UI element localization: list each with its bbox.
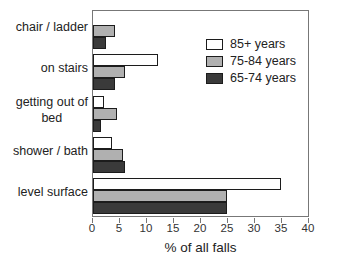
x-tick-label-0: 0 <box>80 222 104 234</box>
x-tick-label-5: 5 <box>107 222 131 234</box>
bar-65-74-years-cat2 <box>93 120 101 132</box>
x-tick-label-25: 25 <box>215 222 239 234</box>
falls-bar-chart: chair / ladderon stairsgetting out of be… <box>0 0 339 268</box>
x-tick-label-35: 35 <box>269 222 293 234</box>
legend-row-2: 65-74 years <box>206 70 296 87</box>
legend-label: 85+ years <box>230 38 285 51</box>
x-tick-label-30: 30 <box>242 222 266 234</box>
bar-85+-years-cat2 <box>93 96 104 108</box>
x-tick-label-15: 15 <box>161 222 185 234</box>
x-axis-label: % of all falls <box>92 240 309 255</box>
legend-row-1: 75-84 years <box>206 53 296 70</box>
x-tick-label-40: 40 <box>296 222 320 234</box>
bar-85+-years-cat4 <box>93 178 281 190</box>
category-label-4: level surface <box>18 184 88 200</box>
x-tick-label-20: 20 <box>188 222 212 234</box>
legend-swatch-icon <box>206 73 223 84</box>
bar-75-84-years-cat0 <box>93 25 115 37</box>
legend-swatch-icon <box>206 39 223 50</box>
bar-75-84-years-cat4 <box>93 190 227 202</box>
bar-75-84-years-cat3 <box>93 149 123 161</box>
legend-row-0: 85+ years <box>206 36 296 53</box>
legend: 85+ years75-84 years65-74 years <box>206 36 296 87</box>
legend-label: 65-74 years <box>230 72 296 85</box>
bar-75-84-years-cat1 <box>93 66 125 78</box>
legend-swatch-icon <box>206 56 223 67</box>
legend-label: 75-84 years <box>230 55 296 68</box>
category-label-1: on stairs <box>41 60 88 76</box>
category-label-2: getting out of bed <box>16 93 88 126</box>
category-label-0: chair / ladder <box>16 19 88 35</box>
bar-65-74-years-cat4 <box>93 202 227 214</box>
bar-65-74-years-cat1 <box>93 78 115 90</box>
bar-85+-years-cat3 <box>93 137 112 149</box>
bar-85+-years-cat1 <box>93 54 158 66</box>
bar-65-74-years-cat0 <box>93 37 106 49</box>
x-tick-label-10: 10 <box>134 222 158 234</box>
bar-65-74-years-cat3 <box>93 161 125 173</box>
bar-75-84-years-cat2 <box>93 108 117 120</box>
category-label-3: shower / bath <box>13 143 88 159</box>
